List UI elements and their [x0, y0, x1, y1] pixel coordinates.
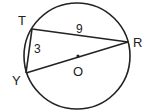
circle-diagram: T R Y O 9 3	[0, 0, 150, 112]
segment-label-tr: 9	[76, 22, 83, 36]
point-label-t: T	[18, 13, 26, 28]
point-label-r: R	[133, 35, 142, 50]
center-label-o: O	[73, 64, 83, 79]
point-label-y: Y	[12, 73, 21, 88]
center-point	[76, 54, 79, 57]
segment-label-ty: 3	[34, 42, 41, 56]
segment-ty	[26, 29, 32, 73]
